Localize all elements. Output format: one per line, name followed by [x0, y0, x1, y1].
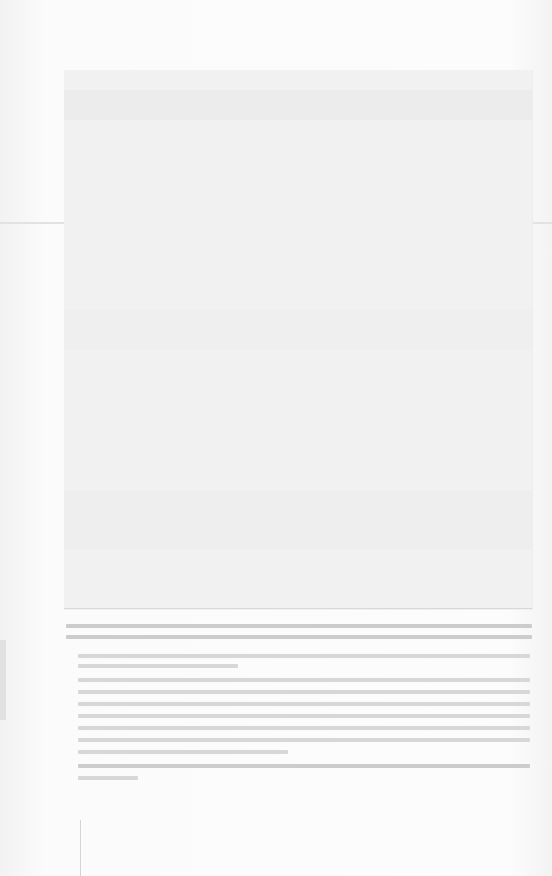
figure-region	[64, 490, 532, 550]
figure-region	[64, 90, 532, 120]
scan-artifact-line	[80, 820, 81, 876]
caption-divider	[64, 608, 532, 609]
figure-photograph	[64, 70, 533, 610]
figure-region	[64, 310, 532, 350]
scanned-page	[0, 0, 552, 876]
scan-edge-shadow	[0, 640, 6, 720]
